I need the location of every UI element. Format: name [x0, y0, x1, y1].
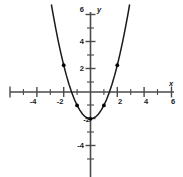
- x-tick-label-pos2: 2: [118, 97, 122, 106]
- x-tick-label-pos4: 4: [144, 97, 149, 106]
- y-tick-label-neg4: -4: [77, 141, 84, 150]
- parabola-graph: -4 -2 2 4 6 6 4 2 -2 -4 x y: [0, 0, 183, 177]
- y-axis-label: y: [96, 5, 102, 14]
- x-tick-label-neg2: -2: [57, 97, 64, 106]
- x-tick-label-neg4: -4: [30, 97, 37, 106]
- x-axis-label: x: [168, 79, 174, 88]
- x-tick-label-pos6: 6: [171, 97, 175, 106]
- y-tick-label-pos2: 2: [80, 64, 84, 73]
- y-tick-label-pos6: 6: [80, 5, 84, 14]
- y-tick-label-pos4: 4: [80, 37, 85, 46]
- y-tick-label-neg2: -2: [83, 115, 90, 124]
- axis-labels-layer: -4 -2 2 4 6 6 4 2 -2 -4 x y: [0, 0, 183, 177]
